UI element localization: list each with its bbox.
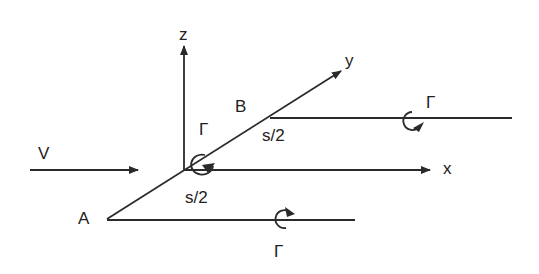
trailing-a-circulation-icon [276, 207, 295, 228]
bound-circulation-label: Γ [199, 121, 208, 138]
diagram-canvas: z y x B A V s/2 s/2 Γ Γ Γ [0, 0, 539, 274]
lower-half-span-label: s/2 [185, 189, 208, 206]
trailing-b-circulation-icon [403, 112, 424, 132]
trailing-b-circulation-label: Γ [426, 94, 435, 111]
x-axis-label: x [443, 160, 452, 177]
y-axis-label: y [345, 52, 354, 69]
z-axis-label: z [179, 26, 188, 43]
trailing-a-circulation-label: Γ [274, 243, 283, 260]
point-a-label: A [78, 210, 89, 227]
freestream-label: V [38, 145, 49, 162]
upper-half-span-label: s/2 [262, 127, 285, 144]
point-b-label: B [235, 98, 246, 115]
y-axis [107, 71, 341, 219]
